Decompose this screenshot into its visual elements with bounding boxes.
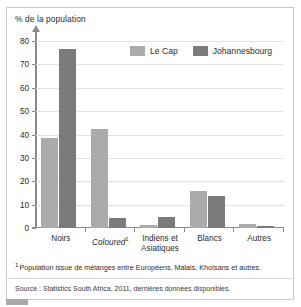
y-tick-label: 30 xyxy=(20,153,29,162)
source-divider xyxy=(6,278,294,279)
bar xyxy=(158,217,175,228)
bar xyxy=(59,49,76,228)
y-tick-label: 60 xyxy=(20,83,29,92)
bar xyxy=(257,226,274,228)
bar-group: Autres xyxy=(234,41,284,228)
bar xyxy=(190,191,207,228)
x-tick-mark xyxy=(233,228,234,232)
y-tick-label: 20 xyxy=(20,177,29,186)
y-tick-mark xyxy=(32,228,36,229)
x-axis-category-label: Autres xyxy=(226,234,292,244)
bar-group: Coloured1 xyxy=(86,41,136,228)
footnote-marker: 1 xyxy=(15,261,18,268)
corner-mark xyxy=(6,299,28,305)
chart-footnote: 1Population issue de mélanges entre Euro… xyxy=(15,260,285,272)
bar-group: Indiens et Asiatiques xyxy=(135,41,185,228)
y-tick-label: 10 xyxy=(20,200,29,209)
y-tick-label: 40 xyxy=(20,130,29,139)
bar-group: Blancs xyxy=(185,41,235,228)
y-tick-label: 0 xyxy=(24,224,29,233)
chart-figure: % de la population Le Cap Johannesbourg … xyxy=(0,0,301,307)
y-axis-title: % de la population xyxy=(15,14,86,24)
x-tick-mark xyxy=(283,228,284,232)
x-tick-mark xyxy=(134,228,135,232)
footnote-text: Population issue de mélanges entre Europ… xyxy=(19,263,261,272)
bar xyxy=(239,224,256,228)
bar xyxy=(140,225,157,228)
y-tick-label: 80 xyxy=(20,37,29,46)
bar xyxy=(109,218,126,228)
plot-area: 01020304050607080 NoirsColoured1Indiens … xyxy=(36,41,284,228)
bar xyxy=(41,138,58,228)
x-tick-mark xyxy=(85,228,86,232)
bar xyxy=(208,196,225,228)
y-axis-arrow xyxy=(32,25,40,32)
chart-source: Source : Statistics South Africa, 2011, … xyxy=(15,285,290,292)
y-tick-label: 70 xyxy=(20,60,29,69)
x-tick-mark xyxy=(184,228,185,232)
bar xyxy=(91,129,108,228)
bar-group: Noirs xyxy=(36,41,86,228)
y-tick-label: 50 xyxy=(20,107,29,116)
